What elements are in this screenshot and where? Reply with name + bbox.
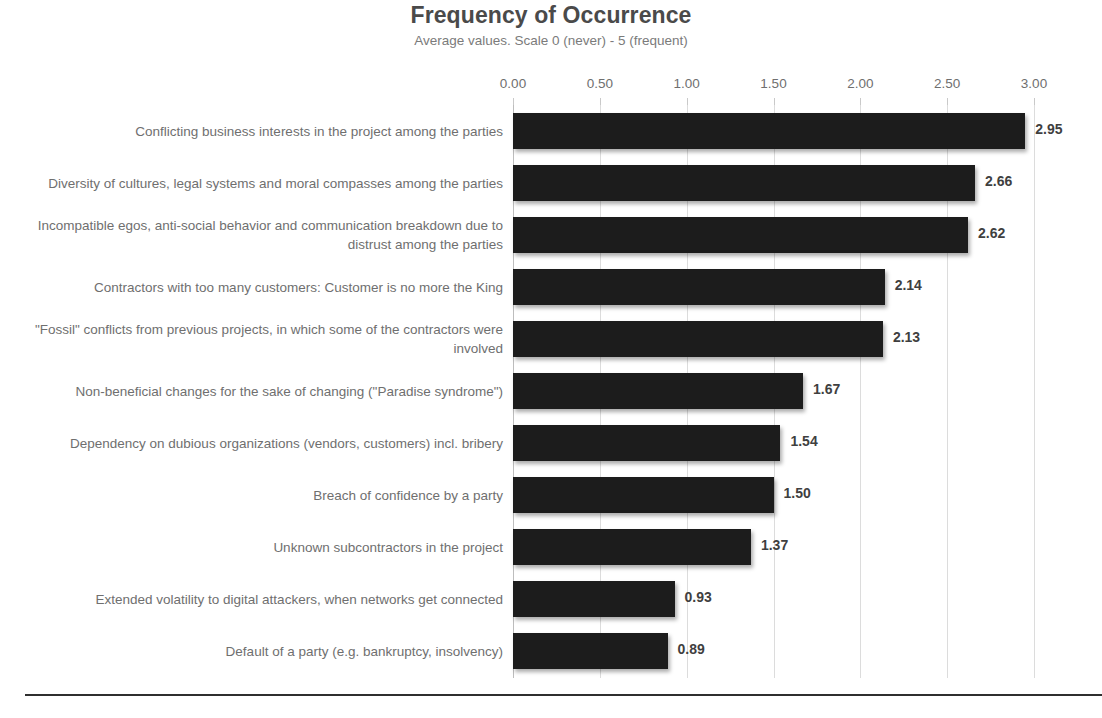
bar[interactable]	[513, 373, 803, 409]
x-axis-tick-mark	[1034, 98, 1035, 105]
bar[interactable]	[513, 425, 780, 461]
bar-chart: Frequency of Occurrence Average values. …	[0, 0, 1102, 718]
x-axis-tick-label: 2.00	[847, 76, 873, 91]
x-axis-tick-mark	[947, 98, 948, 105]
bar-row: 1.37Unknown subcontractors in the projec…	[513, 521, 1034, 573]
bar-row: 1.50Breach of confidence by a party	[513, 469, 1034, 521]
chart-title: Frequency of Occurrence	[0, 2, 1102, 29]
bar[interactable]	[513, 217, 968, 253]
bar[interactable]	[513, 113, 1025, 149]
bar-value-label: 0.89	[678, 641, 705, 657]
category-label: Dependency on dubious organizations (ven…	[8, 434, 503, 453]
category-label: "Fossil" conflicts from previous project…	[8, 320, 503, 358]
plot-area: 2.95Conflicting business interests in th…	[513, 105, 1034, 678]
bar-row: 2.62Incompatible egos, anti-social behav…	[513, 209, 1034, 261]
bar-value-label: 1.37	[761, 537, 788, 553]
bar-row: 0.89Default of a party (e.g. bankruptcy,…	[513, 625, 1034, 677]
bar-row: 2.14Contractors with too many customers:…	[513, 261, 1034, 313]
x-axis-tick-labels: 0.000.501.001.502.002.503.00	[513, 76, 1034, 98]
bottom-divider	[25, 694, 1102, 696]
bar-value-label: 2.66	[985, 173, 1012, 189]
bar[interactable]	[513, 581, 675, 617]
bar-value-label: 1.54	[790, 433, 817, 449]
bar-value-label: 2.95	[1035, 121, 1062, 137]
x-axis-tick-label: 2.50	[934, 76, 960, 91]
category-label: Contractors with too many customers: Cus…	[8, 278, 503, 297]
bar-value-label: 2.14	[895, 277, 922, 293]
x-axis-tick-mark	[687, 98, 688, 105]
x-axis-tick-mark	[860, 98, 861, 105]
x-axis-tick-label: 0.00	[500, 76, 526, 91]
bar[interactable]	[513, 633, 668, 669]
bar-row: 1.67Non-beneficial changes for the sake …	[513, 365, 1034, 417]
x-axis-tick-label: 1.50	[760, 76, 786, 91]
bar-row: 0.93Extended volatility to digital attac…	[513, 573, 1034, 625]
bar-value-label: 1.67	[813, 381, 840, 397]
x-axis-tick-mark	[774, 98, 775, 105]
category-label: Diversity of cultures, legal systems and…	[8, 174, 503, 193]
x-axis-tick-mark	[513, 98, 514, 105]
category-label: Non-beneficial changes for the sake of c…	[8, 382, 503, 401]
category-label: Default of a party (e.g. bankruptcy, ins…	[8, 642, 503, 661]
bar-value-label: 2.13	[893, 329, 920, 345]
category-label: Extended volatility to digital attackers…	[8, 590, 503, 609]
x-axis-tick-label: 1.00	[674, 76, 700, 91]
bar-row: 2.95Conflicting business interests in th…	[513, 105, 1034, 157]
bar-value-label: 1.50	[784, 485, 811, 501]
gridline	[1034, 105, 1035, 678]
chart-subtitle: Average values. Scale 0 (never) - 5 (fre…	[0, 33, 1102, 48]
category-label: Conflicting business interests in the pr…	[8, 122, 503, 141]
bar[interactable]	[513, 269, 885, 305]
bar[interactable]	[513, 165, 975, 201]
bar-row: 1.54Dependency on dubious organizations …	[513, 417, 1034, 469]
bar[interactable]	[513, 477, 774, 513]
bar[interactable]	[513, 529, 751, 565]
x-axis-tick-label: 3.00	[1021, 76, 1047, 91]
category-label: Unknown subcontractors in the project	[8, 538, 503, 557]
bar[interactable]	[513, 321, 883, 357]
bar-row: 2.13"Fossil" conflicts from previous pro…	[513, 313, 1034, 365]
x-axis-tick-mark	[600, 98, 601, 105]
category-label: Incompatible egos, anti-social behavior …	[8, 216, 503, 254]
category-label: Breach of confidence by a party	[8, 486, 503, 505]
x-axis-tick-label: 0.50	[587, 76, 613, 91]
bar-row: 2.66Diversity of cultures, legal systems…	[513, 157, 1034, 209]
bar-value-label: 2.62	[978, 225, 1005, 241]
bar-value-label: 0.93	[685, 589, 712, 605]
